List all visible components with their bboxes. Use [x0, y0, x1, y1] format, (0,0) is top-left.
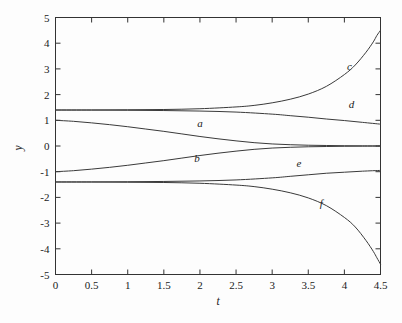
x-tick-label: 4.5 — [374, 279, 388, 291]
y-tick-label: 0 — [44, 140, 50, 152]
x-tick-label: 1 — [125, 279, 131, 291]
y-tick-label: 4 — [44, 37, 50, 49]
x-tick-label: 0.5 — [85, 279, 99, 291]
curve-label-b: b — [194, 152, 200, 164]
y-tick-label: 5 — [44, 12, 50, 24]
x-tick-label: 1.5 — [157, 279, 171, 291]
y-tick-label: -3 — [40, 217, 50, 229]
x-tick-label: 0 — [53, 279, 59, 291]
x-tick-label: 4 — [342, 279, 348, 291]
y-tick-label: -4 — [40, 243, 50, 255]
y-tick-label: -1 — [40, 166, 49, 178]
x-tick-label: 3.5 — [301, 279, 315, 291]
y-tick-label: -2 — [40, 191, 49, 203]
curve-label-d: d — [349, 98, 355, 110]
chart-canvas: 543210-1-2-3-4-5 00.511.522.533.544.5 ab… — [0, 0, 402, 323]
curve-label-a: a — [197, 117, 203, 129]
curve-label-c: c — [347, 60, 352, 72]
y-axis-title: y — [12, 145, 25, 152]
chart-figure: 543210-1-2-3-4-5 00.511.522.533.544.5 ab… — [0, 0, 402, 323]
x-tick-label: 2 — [197, 279, 203, 291]
y-tick-label: -5 — [40, 269, 50, 281]
y-tick-label: 2 — [44, 89, 50, 101]
x-tick-label: 2.5 — [229, 279, 243, 291]
y-tick-label: 1 — [44, 114, 50, 126]
x-tick-label: 3 — [269, 279, 275, 291]
y-tick-label: 3 — [44, 63, 50, 75]
curve-label-e: e — [296, 157, 301, 169]
